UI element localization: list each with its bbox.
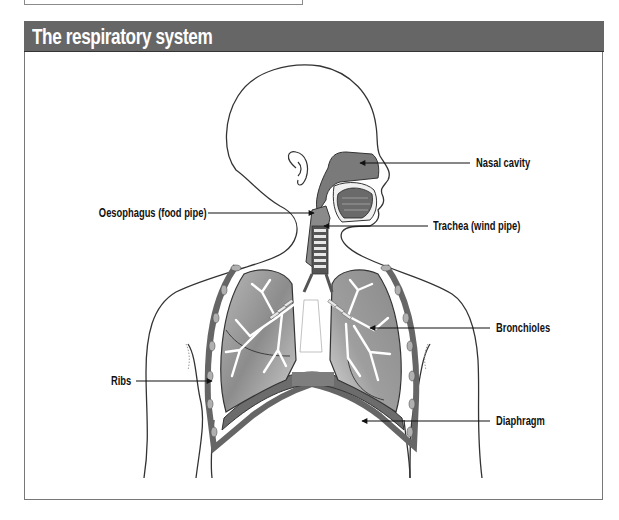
- label-nasal-cavity: Nasal cavity: [476, 155, 530, 170]
- label-oesophagus: Oesophagus (food pipe): [98, 205, 206, 220]
- label-diaphragm: Diaphragm: [496, 413, 545, 428]
- label-trachea: Trachea (wind pipe): [433, 218, 520, 233]
- label-ribs: Ribs: [111, 373, 131, 388]
- label-bronchioles: Bronchioles: [496, 320, 550, 335]
- trachea: [306, 206, 330, 274]
- ear: [288, 152, 307, 185]
- respiratory-diagram: [0, 0, 619, 520]
